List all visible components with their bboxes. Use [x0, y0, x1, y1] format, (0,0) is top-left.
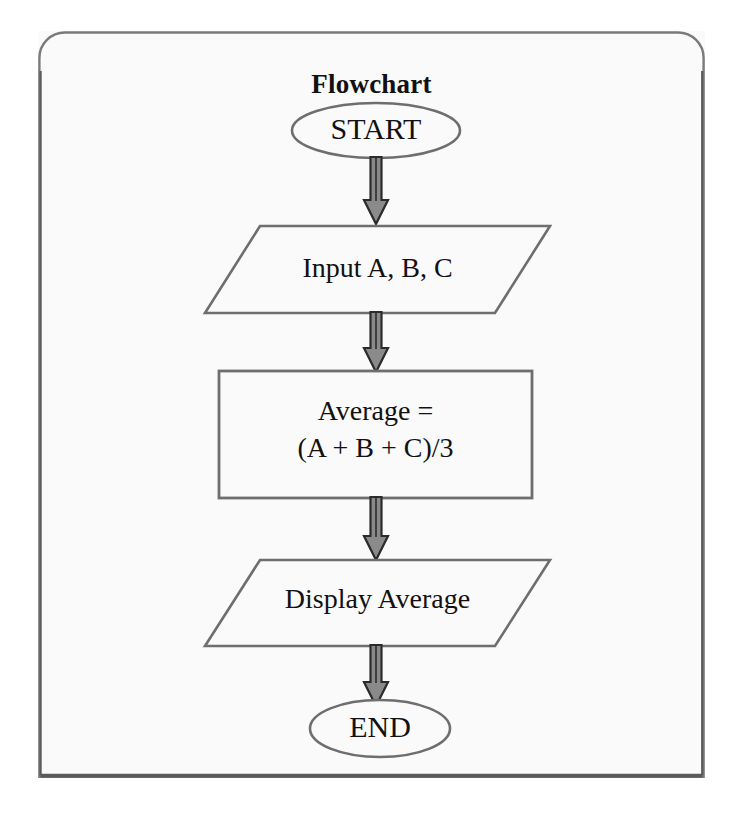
- node-start-label: START: [292, 112, 460, 146]
- node-display-label: Display Average: [205, 583, 550, 614]
- connector-input-to-process: [364, 312, 388, 372]
- node-input-label: Input A, B, C: [205, 252, 550, 283]
- flowchart-page: Flowchart: [0, 0, 740, 834]
- node-process-label-line1: Average =: [219, 395, 532, 426]
- node-process-label-line2: (A + B + C)/3: [219, 432, 532, 463]
- node-end-label: END: [310, 710, 450, 744]
- connector-start-to-input: [364, 157, 388, 224]
- connector-process-to-display: [364, 497, 388, 560]
- connector-display-to-end: [364, 645, 388, 706]
